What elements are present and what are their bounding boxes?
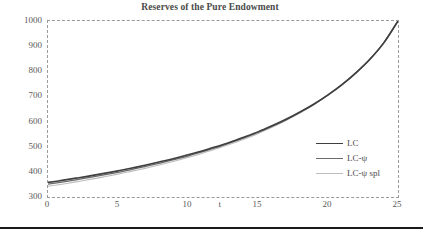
x-tick-label: 15	[253, 199, 262, 209]
legend-line-swatch	[316, 173, 343, 174]
x-tick-label: 20	[323, 199, 332, 209]
chart-legend: LCLC-ψLC-ψ spl	[316, 136, 402, 181]
y-tick-label: 1000	[0, 15, 42, 25]
x-axis-title: t	[219, 199, 222, 209]
y-tick-label: 900	[0, 40, 42, 50]
legend-entry: LC-ψ spl	[316, 166, 402, 181]
y-tick-label: 300	[0, 191, 42, 201]
legend-entry: LC-ψ	[316, 151, 402, 166]
x-tick-label: 5	[115, 199, 120, 209]
y-axis: 3004005006007008009001000	[0, 20, 42, 196]
x-tick-label: 0	[45, 199, 50, 209]
y-tick-label: 500	[0, 141, 42, 151]
legend-label: LC	[347, 139, 359, 148]
legend-line-swatch	[316, 143, 343, 144]
y-tick-label: 600	[0, 116, 42, 126]
chart-title: Reserves of the Pure Endowment	[60, 2, 360, 12]
legend-line-swatch	[316, 158, 343, 159]
x-tick-label: 10	[183, 199, 192, 209]
legend-entry: LC	[316, 136, 402, 151]
y-tick-label: 700	[0, 90, 42, 100]
x-axis: 0510152025	[47, 199, 397, 213]
chart-figure: Reserves of the Pure Endowment 300400500…	[0, 0, 423, 235]
bottom-rule-divider	[0, 227, 423, 229]
x-tick-label: 25	[393, 199, 402, 209]
legend-label: LC-ψ spl	[347, 169, 380, 178]
legend-label: LC-ψ	[347, 154, 367, 163]
y-tick-label: 400	[0, 166, 42, 176]
y-tick-label: 800	[0, 65, 42, 75]
